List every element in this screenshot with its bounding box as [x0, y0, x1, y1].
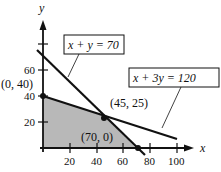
y-tick-40: 40 [24, 90, 36, 102]
eq1-label: x + y = 70 [67, 38, 119, 52]
chart: 20 40 60 80 100 20 40 60 y x (0, 40) (45… [0, 0, 221, 172]
vertex-45-25 [101, 115, 107, 121]
y-tick-20: 20 [24, 116, 36, 128]
label-point-45-25: (45, 25) [110, 96, 148, 110]
x-tick-100: 100 [168, 155, 185, 167]
y-tick-60: 60 [24, 64, 36, 76]
eq2-label: x + 3y = 120 [132, 71, 196, 85]
y-axis-arrow [40, 20, 47, 30]
x-tick-20: 20 [64, 155, 76, 167]
x-axis-label: x [199, 141, 206, 155]
label-point-0-40: (0, 40) [1, 77, 33, 91]
eq1-leader [68, 54, 79, 77]
x-tick-80: 80 [144, 155, 156, 167]
x-axis-arrow [184, 145, 194, 152]
x-tick-40: 40 [91, 155, 103, 167]
vertex-70-0 [135, 145, 141, 151]
x-tick-60: 60 [117, 155, 129, 167]
label-point-70-0: (70, 0) [81, 130, 113, 144]
vertex-0-40 [40, 93, 46, 99]
y-axis-label: y [38, 1, 45, 15]
eq2-leader [162, 87, 181, 128]
